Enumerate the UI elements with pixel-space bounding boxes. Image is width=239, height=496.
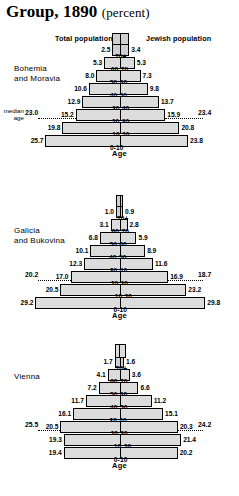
bar-centre-divider <box>120 272 121 282</box>
pyramid-row: 40-5010.69.8 <box>0 83 239 95</box>
bar-centre-divider <box>120 357 121 367</box>
bar-centre-divider <box>120 84 121 94</box>
figure-title-main: Group, 1890 <box>6 2 97 21</box>
age-bar-40-50: 40-50 <box>86 395 152 407</box>
bar-centre-divider <box>120 435 121 445</box>
pyramid-row: 40-5011.711.2 <box>0 395 239 407</box>
age-bar-30-40: 30-40 <box>84 258 153 270</box>
value-right: 5.9 <box>138 232 147 244</box>
pyramid-row: 20-3020.520.3 <box>0 421 239 433</box>
bar-centre-divider <box>120 45 121 55</box>
bar-centre-divider <box>120 448 121 458</box>
value-left: 8.0 <box>85 70 94 82</box>
age-bar-40-50: 40-50 <box>90 245 145 257</box>
axis-label-age: Age <box>0 461 239 470</box>
age-bar-70+: 70+ <box>112 44 129 56</box>
bar-centre-divider <box>120 58 121 68</box>
pyramid-row: 0-1019.420.2 <box>0 447 239 459</box>
pyramid-row: 20-3015.215.9 <box>0 109 239 121</box>
figure-title-unit: (percent) <box>102 5 150 20</box>
value-right: 8.9 <box>147 245 156 257</box>
value-right: 16.9 <box>170 271 183 283</box>
value-right: 2.8 <box>130 219 139 231</box>
age-bar-50-60: 50-60 <box>100 232 137 244</box>
bar-centre-divider <box>120 396 121 406</box>
value-right: 1.6 <box>126 356 135 368</box>
bar-centre-divider <box>120 409 121 419</box>
value-left: 19.4 <box>49 447 62 459</box>
bar-centre-divider <box>120 123 121 133</box>
value-left: 5.3 <box>93 57 102 69</box>
axis-label-age: Age <box>0 311 239 320</box>
value-left: 16.1 <box>58 408 71 420</box>
value-right: 7.3 <box>143 70 152 82</box>
pyramid-row: 10-2020.523.2 <box>0 284 239 296</box>
age-bar-70+: 70+ <box>116 206 123 218</box>
pyramid-row: 70+1.00.9 <box>0 206 239 218</box>
value-right: 6.6 <box>141 382 150 394</box>
age-bar-20-30: 20-30 <box>71 271 169 283</box>
bar-centre-divider <box>120 259 121 269</box>
pyramid-row: 30-4016.115.1 <box>0 408 239 420</box>
value-left: 19.3 <box>49 434 62 446</box>
value-left: 12.9 <box>68 96 81 108</box>
value-left: 20.5 <box>46 284 59 296</box>
pyramid-row: 60-703.12.8 <box>0 219 239 231</box>
value-right: 5.3 <box>137 57 146 69</box>
value-left: 20.5 <box>46 421 59 433</box>
value-left: 15.2 <box>61 109 74 121</box>
pyramid-row: 0-1025.723.8 <box>0 135 239 147</box>
value-left: 10.1 <box>76 245 89 257</box>
age-bar-60-70: 60-70 <box>108 369 130 381</box>
pyramid-row: 70+2.53.4 <box>0 44 239 56</box>
age-bar-0-10: 0-10 <box>45 135 188 147</box>
value-left: 12.3 <box>69 258 82 270</box>
bar-centre-divider <box>120 298 121 308</box>
bar-centre-divider <box>120 220 121 230</box>
pyramid-row: 50-608.07.3 <box>0 70 239 82</box>
figure-population-pyramids: Group, 1890 (percent) Total population J… <box>0 0 239 496</box>
value-right: 3.6 <box>132 369 141 381</box>
value-right: 23.2 <box>188 284 201 296</box>
value-right: 3.4 <box>131 44 140 56</box>
pyramid-row: 60-704.13.6 <box>0 369 239 381</box>
age-bar-0-10: 0-10 <box>64 447 178 459</box>
bar-centre-divider <box>120 233 121 243</box>
value-right: 9.8 <box>150 83 159 95</box>
value-left: 19.8 <box>48 122 61 134</box>
value-left: 3.1 <box>99 219 108 231</box>
bar-centre-divider <box>120 383 121 393</box>
pyramid-row: 30-4012.913.7 <box>0 96 239 108</box>
pyramid-row: 40-5010.18.9 <box>0 245 239 257</box>
column-header-jewish: Jewish population <box>146 34 211 43</box>
value-left: 25.7 <box>31 135 44 147</box>
age-bar-50-60: 50-60 <box>99 382 139 394</box>
bar-centre-divider <box>120 110 121 120</box>
age-bar-70plus-spike <box>116 195 123 206</box>
age-bar-50-60: 50-60 <box>96 70 140 82</box>
pyramid-row: 20-3017.016.9 <box>0 271 239 283</box>
column-header-total: Total population <box>55 34 113 43</box>
bar-centre-divider <box>120 370 121 380</box>
age-bar-10-20: 10-20 <box>62 122 179 134</box>
value-right: 15.1 <box>165 408 178 420</box>
legend-swatch-icon <box>115 344 126 358</box>
pyramid-row: 10-2019.820.8 <box>0 122 239 134</box>
value-right: 21.4 <box>183 434 196 446</box>
pyramid-row: 30-4012.311.6 <box>0 258 239 270</box>
age-bar-0-10: 0-10 <box>35 297 205 309</box>
pyramid-row: 50-607.26.6 <box>0 382 239 394</box>
age-bar-60-70: 60-70 <box>104 57 135 69</box>
bar-centre-divider <box>120 34 121 45</box>
value-left: 10.6 <box>74 83 87 95</box>
age-bar-70plus-spike <box>112 33 129 44</box>
bar-centre-divider <box>120 71 121 81</box>
value-right: 0.9 <box>125 206 134 218</box>
bar-centre-divider <box>120 207 121 217</box>
age-bar-60-70: 60-70 <box>111 219 128 231</box>
value-right: 11.6 <box>155 258 167 270</box>
value-right: 20.3 <box>180 421 193 433</box>
pyramid-row: 0-1029.229.8 <box>0 297 239 309</box>
value-right: 20.2 <box>180 447 193 459</box>
value-left: 2.5 <box>101 44 110 56</box>
